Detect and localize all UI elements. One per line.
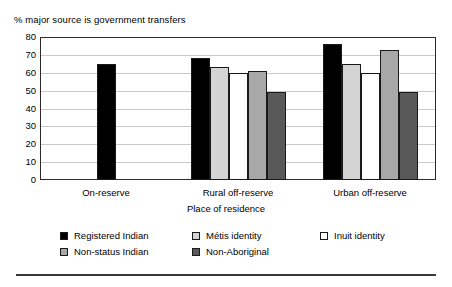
x-axis-tick-label: Rural off-reserve [172, 187, 304, 198]
y-axis-tick-label: 70 [2, 50, 36, 60]
legend-label: Métis identity [206, 230, 261, 241]
legend-item[interactable]: Métis identity [192, 230, 320, 241]
x-axis-tick-label: Urban off-reserve [304, 187, 436, 198]
bar [323, 44, 342, 180]
bar [248, 71, 267, 180]
legend-label: Non-Aboriginal [206, 246, 269, 257]
x-axis-title: Place of residence [0, 203, 452, 214]
bar-group [323, 37, 418, 180]
bar [210, 67, 229, 180]
legend-label: Registered Indian [74, 230, 148, 241]
legend-swatch-icon [192, 232, 200, 240]
y-axis-tick-label: 20 [2, 139, 36, 149]
y-axis-tick-label: 60 [2, 68, 36, 78]
legend-swatch-icon [320, 232, 328, 240]
chart-legend: Registered IndianMétis identityInuit ide… [60, 230, 440, 262]
bar [97, 64, 116, 180]
legend-item[interactable]: Inuit identity [320, 230, 440, 241]
bar [361, 73, 380, 180]
legend-swatch-icon [60, 248, 68, 256]
bars-layer [40, 37, 436, 180]
y-axis: 01020304050607080 [0, 37, 36, 180]
y-axis-tick-label: 40 [2, 104, 36, 114]
legend-row: Non-status IndianNon-Aboriginal [60, 246, 440, 262]
bar [267, 92, 286, 180]
legend-item[interactable]: Non-status Indian [60, 246, 192, 257]
bar [399, 92, 418, 180]
y-axis-tick-label: 10 [2, 157, 36, 167]
y-axis-tick-label: 50 [2, 86, 36, 96]
bar [380, 50, 399, 180]
legend-swatch-icon [192, 248, 200, 256]
y-axis-tick-label: 30 [2, 121, 36, 131]
bar-chart-figure: % major source is government transfers 0… [0, 0, 452, 287]
bar [191, 58, 210, 180]
legend-item[interactable]: Registered Indian [60, 230, 192, 241]
y-axis-tick-label: 0 [2, 175, 36, 185]
bar-group [97, 37, 116, 180]
legend-label: Inuit identity [334, 230, 385, 241]
bar [229, 73, 248, 180]
legend-swatch-icon [60, 232, 68, 240]
legend-item[interactable]: Non-Aboriginal [192, 246, 320, 257]
footer-divider [16, 274, 436, 276]
chart-title: % major source is government transfers [14, 14, 186, 25]
bar [342, 64, 361, 180]
y-axis-tick-label: 80 [2, 32, 36, 42]
x-axis-tick-label: On-reserve [40, 187, 172, 198]
bar-group [191, 37, 286, 180]
legend-row: Registered IndianMétis identityInuit ide… [60, 230, 440, 246]
legend-label: Non-status Indian [74, 246, 148, 257]
